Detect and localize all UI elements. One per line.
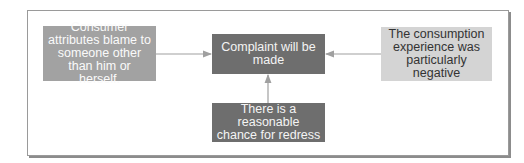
node-label: There is a reasonable chance for redress [216,103,321,142]
node-complaint-made: Complaint will be made [212,34,325,74]
node-label: Consumer attributes blame to someone oth… [47,21,152,86]
node-label: Complaint will be made [216,41,321,67]
node-label: The consumption experience was particula… [385,28,488,80]
node-negative-experience: The consumption experience was particula… [381,27,492,81]
node-consumer-blame: Consumer attributes blame to someone oth… [43,26,156,81]
node-chance-redress: There is a reasonable chance for redress [212,103,325,142]
